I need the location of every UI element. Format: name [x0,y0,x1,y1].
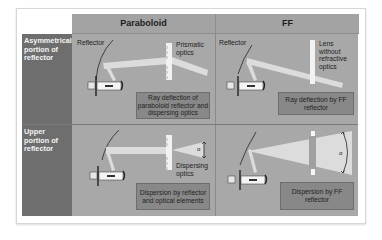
prismatic-optics-label: Prismatic optics [176,41,212,56]
caption-upper-ff: Dispersion by FF reflector [280,182,354,210]
dispersing-optics-label: Dispersing optics [176,162,212,177]
lamp-bulb-icon [88,76,123,96]
lens-icon [309,131,316,175]
caption-asym-paraboloid: Ray deflection of paraboloid reflector a… [136,92,210,119]
lamp-bulb-icon [228,170,267,190]
lens-icon [310,40,315,84]
caption-asym-ff: Ray deflection by FF reflector [278,92,354,115]
dispersed-beam [248,131,352,175]
reflector-label: Reflector [77,39,104,47]
lens-label: Lens without refractive optics [319,40,353,70]
alpha-label: α [339,150,342,158]
caption-text: Ray deflection of paraboloid reflector a… [137,94,209,117]
caption-upper-paraboloid: Dispersion by reflector and optical elem… [136,183,210,210]
caption-text: Dispersion by FF reflector [281,188,353,203]
light-beam [106,147,166,154]
caption-text: Dispersion by reflector and optical elem… [137,189,209,204]
lamp-bulb-icon [227,76,265,96]
dispersing-optics-icon [166,135,172,170]
alpha-label: α [197,146,200,154]
light-beam [103,57,170,69]
prismatic-optics-icon [166,43,172,80]
reflector-label: Reflector [219,39,246,47]
caption-text: Ray deflection by FF reflector [279,96,353,111]
reflector-icon [102,130,119,160]
lamp-bulb-icon [90,166,125,186]
